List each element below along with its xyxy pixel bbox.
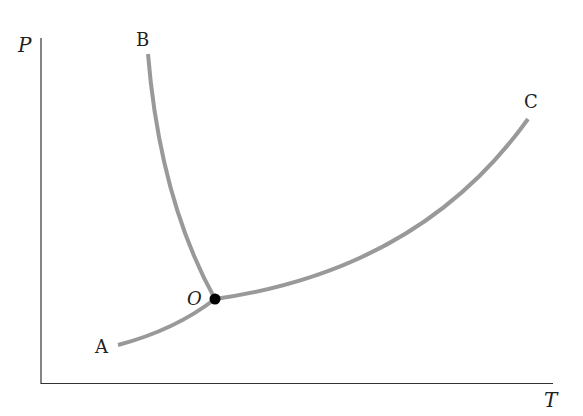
triple-point-O (210, 294, 221, 305)
curve-OB (148, 54, 215, 299)
y-axis-label: P (17, 33, 32, 57)
label-B: B (136, 29, 149, 50)
phase-diagram: P T B A C O (0, 0, 583, 416)
x-axis-label: T (544, 388, 559, 412)
label-O: O (187, 288, 202, 309)
label-C: C (524, 91, 538, 112)
curve-OC (215, 119, 528, 299)
label-A: A (94, 336, 109, 357)
